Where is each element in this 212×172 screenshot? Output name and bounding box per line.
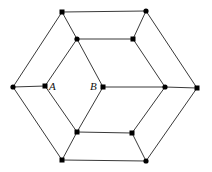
edge — [146, 11, 197, 88]
node-o_tl — [60, 10, 65, 15]
edge — [13, 87, 62, 160]
edge — [133, 11, 146, 39]
node-i_tl — [74, 36, 79, 41]
edge — [165, 87, 197, 88]
node-i_br — [130, 131, 135, 136]
node-o_tr — [143, 8, 148, 13]
label-a: A — [49, 81, 56, 92]
edge — [132, 133, 146, 161]
label-b: B — [90, 81, 97, 92]
edge — [62, 12, 77, 39]
node-i_r — [162, 84, 167, 89]
node-i_tr — [131, 37, 136, 42]
edge — [146, 88, 197, 161]
edge — [132, 87, 165, 133]
node-i_bl — [75, 130, 80, 135]
graph-canvas — [0, 0, 212, 172]
edge — [13, 86, 45, 87]
edge — [77, 87, 103, 132]
edge — [62, 132, 77, 160]
edge — [45, 39, 77, 86]
edge — [62, 11, 146, 12]
edge — [45, 86, 77, 132]
node-o_br — [143, 158, 148, 163]
node-o_l — [10, 84, 15, 89]
node-o_r — [195, 86, 200, 91]
node-B — [101, 85, 106, 90]
node-A — [43, 84, 48, 89]
edge — [77, 132, 132, 133]
edge — [62, 160, 146, 161]
graph-diagram: A B — [0, 0, 212, 172]
node-o_bl — [60, 158, 65, 163]
edge — [13, 12, 62, 87]
edge — [133, 39, 165, 87]
